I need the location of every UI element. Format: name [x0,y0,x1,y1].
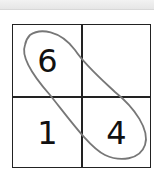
diagonal-loop-annotation [0,0,154,172]
